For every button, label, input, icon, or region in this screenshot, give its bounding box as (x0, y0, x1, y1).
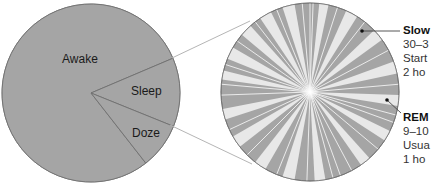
leader-dot (385, 98, 389, 102)
callout-line: 1 ho (403, 152, 430, 166)
callout-slow-wave: Slow 30–3 Start 2 ho (403, 23, 430, 79)
slice-label-sleep: Sleep (131, 84, 162, 98)
center-glow (301, 83, 319, 101)
callout-line: Start (403, 51, 430, 65)
callout-rem: REM 9–10 Usua 1 ho (403, 110, 430, 166)
leader-dot (360, 29, 364, 33)
callout-title: REM (403, 110, 430, 124)
callout-line: 30–3 (403, 37, 430, 51)
callout-line: 9–10 (403, 124, 430, 138)
callout-line: Usua (403, 138, 430, 152)
slice-label-doze: Doze (132, 126, 160, 140)
callout-line: 2 ho (403, 65, 430, 79)
sleep-diagram (0, 0, 441, 187)
right-pie-chart (221, 3, 399, 181)
slice-label-awake: Awake (62, 52, 98, 66)
callout-title: Slow (403, 23, 430, 37)
